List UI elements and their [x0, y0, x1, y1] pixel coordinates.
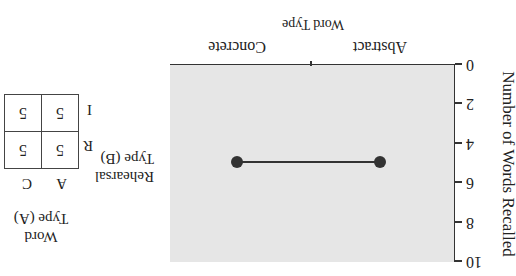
table-cell: 5	[42, 132, 79, 169]
data-point	[374, 156, 386, 168]
row-label: R	[83, 137, 93, 154]
word-type-header: Word Type (A)	[6, 210, 76, 246]
col-label: C	[22, 175, 32, 192]
col-header-line: Word	[6, 228, 76, 246]
row-header-line: Rehearsal	[95, 168, 154, 186]
table-cell: 5	[5, 132, 42, 169]
table-cell: 5	[5, 95, 42, 132]
table-cell: 5	[42, 95, 79, 132]
col-header-line: Type (A)	[6, 210, 76, 228]
row-label: I	[87, 101, 92, 118]
design-table: 5 5 5 5	[4, 94, 79, 169]
col-label: A	[56, 175, 67, 192]
chart-stage: Number of Words Recalled 0 2 4 6 8 10 Ab…	[0, 0, 516, 276]
row-header-line: Type (B)	[95, 150, 154, 168]
rehearsal-type-header: Rehearsal Type (B)	[95, 150, 154, 186]
data-point	[231, 156, 243, 168]
